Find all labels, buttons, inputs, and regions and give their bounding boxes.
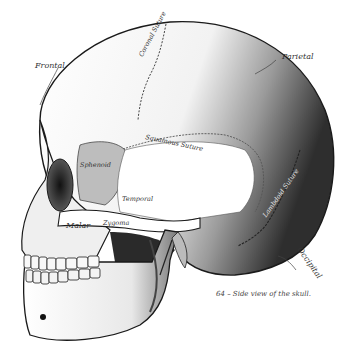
label-frontal: Frontal (35, 62, 65, 70)
temporal-region (118, 142, 255, 222)
figure-caption: 64 – Side view of the skull. (216, 291, 311, 298)
skull-side-view-figure: Frontal Parietal Coronal Suture Squamous… (0, 0, 352, 358)
orbit (47, 159, 73, 211)
label-temporal: Temporal (122, 196, 153, 203)
label-zygoma: Zygoma (103, 220, 129, 227)
label-malar: Malar (66, 222, 90, 230)
label-sphenoid: Sphenoid (80, 162, 111, 169)
label-parietal: Parietal (282, 53, 313, 61)
mental-foramen (40, 314, 46, 320)
